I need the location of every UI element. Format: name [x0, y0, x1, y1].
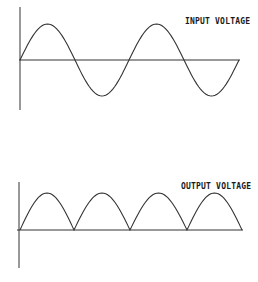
- waveform-diagram: [0, 0, 258, 282]
- output-voltage-label: OUTPUT VOLTAGE: [181, 182, 251, 191]
- output-rectified-wave: [20, 193, 242, 230]
- output-voltage-panel: [17, 182, 243, 268]
- input-voltage-label: INPUT VOLTAGE: [185, 17, 250, 26]
